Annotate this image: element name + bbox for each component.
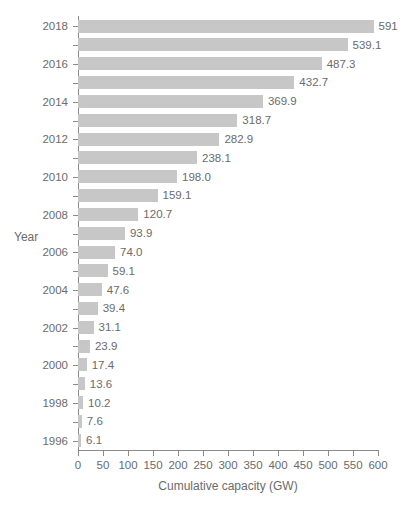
y-tick-mark bbox=[73, 309, 78, 310]
y-tick-mark bbox=[73, 64, 78, 65]
bar-row: 7.6 bbox=[78, 412, 378, 431]
bar-value-label: 369.9 bbox=[268, 93, 297, 109]
bar-row: 13.6 bbox=[78, 375, 378, 394]
bar bbox=[78, 321, 94, 334]
bar-value-label: 487.3 bbox=[327, 56, 356, 72]
bar-value-label: 59.1 bbox=[113, 263, 135, 279]
y-tick-mark bbox=[73, 83, 78, 84]
bar bbox=[78, 151, 197, 164]
bar bbox=[78, 283, 102, 296]
y-tick-label: 2000 bbox=[4, 358, 68, 372]
bar bbox=[78, 434, 81, 447]
y-tick-mark bbox=[73, 346, 78, 347]
y-tick-mark bbox=[73, 158, 78, 159]
y-tick-mark bbox=[73, 234, 78, 235]
bar-value-label: 93.9 bbox=[130, 225, 152, 241]
bar-row: 282.9 bbox=[78, 130, 378, 149]
bar-row: 17.4 bbox=[78, 356, 378, 375]
y-tick-mark bbox=[73, 422, 78, 423]
y-tick-mark bbox=[73, 45, 78, 46]
bar bbox=[78, 114, 237, 127]
bar-value-label: 159.1 bbox=[163, 187, 192, 203]
bar-row: 432.7 bbox=[78, 73, 378, 92]
y-tick-mark bbox=[73, 196, 78, 197]
x-tick-mark bbox=[378, 451, 379, 456]
bar bbox=[78, 95, 263, 108]
x-tick-mark bbox=[303, 451, 304, 456]
x-tick-mark bbox=[103, 451, 104, 456]
bar-value-label: 318.7 bbox=[242, 112, 271, 128]
y-tick-mark bbox=[73, 252, 78, 253]
y-tick-label: 2016 bbox=[4, 57, 68, 71]
bar bbox=[78, 302, 98, 315]
bar bbox=[78, 57, 322, 70]
x-tick-mark bbox=[128, 451, 129, 456]
bar-value-label: 17.4 bbox=[92, 357, 114, 373]
bar-row: 369.9 bbox=[78, 92, 378, 111]
x-tick-mark bbox=[328, 451, 329, 456]
y-tick-mark bbox=[73, 177, 78, 178]
bar bbox=[78, 133, 219, 146]
x-tick-mark bbox=[353, 451, 354, 456]
bar bbox=[78, 170, 177, 183]
x-tick-label: 600 bbox=[358, 458, 398, 472]
cumulative-capacity-bar-chart: 591539.1487.3432.7369.9318.7282.9238.119… bbox=[0, 0, 420, 509]
bar bbox=[78, 415, 82, 428]
bar-row: 238.1 bbox=[78, 149, 378, 168]
bar-value-label: 39.4 bbox=[103, 300, 125, 316]
bar-row: 47.6 bbox=[78, 281, 378, 300]
y-tick-label: 1996 bbox=[4, 434, 68, 448]
bar bbox=[78, 340, 90, 353]
y-tick-label: 2004 bbox=[4, 283, 68, 297]
bar-value-label: 23.9 bbox=[95, 338, 117, 354]
y-tick-mark bbox=[73, 384, 78, 385]
bar-row: 487.3 bbox=[78, 55, 378, 74]
y-tick-label: 2014 bbox=[4, 95, 68, 109]
bar-row: 539.1 bbox=[78, 36, 378, 55]
bar bbox=[78, 38, 348, 51]
y-tick-mark bbox=[73, 328, 78, 329]
bar-row: 120.7 bbox=[78, 205, 378, 224]
bar bbox=[78, 189, 158, 202]
y-tick-mark bbox=[73, 102, 78, 103]
x-tick-mark bbox=[278, 451, 279, 456]
bar-row: 591 bbox=[78, 17, 378, 36]
x-tick-mark bbox=[153, 451, 154, 456]
bar-value-label: 198.0 bbox=[182, 169, 211, 185]
bar-row: 93.9 bbox=[78, 224, 378, 243]
bar bbox=[78, 208, 138, 221]
y-tick-label: 2010 bbox=[4, 170, 68, 184]
bar-row: 23.9 bbox=[78, 337, 378, 356]
y-tick-mark bbox=[73, 271, 78, 272]
bar-value-label: 432.7 bbox=[299, 74, 328, 90]
plot-area: 591539.1487.3432.7369.9318.7282.9238.119… bbox=[78, 17, 378, 450]
y-tick-label: 2002 bbox=[4, 321, 68, 335]
x-tick-mark bbox=[203, 451, 204, 456]
bar bbox=[78, 358, 87, 371]
y-tick-mark bbox=[73, 365, 78, 366]
bar-value-label: 120.7 bbox=[143, 206, 172, 222]
bar bbox=[78, 396, 83, 409]
bar-value-label: 31.1 bbox=[99, 319, 121, 335]
y-tick-label: 2008 bbox=[4, 208, 68, 222]
bar-row: 198.0 bbox=[78, 168, 378, 187]
y-tick-mark bbox=[73, 215, 78, 216]
bar bbox=[78, 227, 125, 240]
bar-row: 39.4 bbox=[78, 299, 378, 318]
y-tick-mark bbox=[73, 139, 78, 140]
y-tick-mark bbox=[73, 290, 78, 291]
y-tick-mark bbox=[73, 26, 78, 27]
y-axis-title: Year bbox=[14, 230, 38, 244]
x-axis-title: Cumulative capacity (GW) bbox=[78, 479, 378, 493]
y-tick-label: 1998 bbox=[4, 396, 68, 410]
bar-row: 159.1 bbox=[78, 186, 378, 205]
x-tick-mark bbox=[253, 451, 254, 456]
bar-value-label: 10.2 bbox=[88, 395, 110, 411]
bar-row: 31.1 bbox=[78, 318, 378, 337]
bar-value-label: 282.9 bbox=[224, 131, 253, 147]
y-tick-mark bbox=[73, 121, 78, 122]
bar-value-label: 6.1 bbox=[86, 432, 102, 448]
bar-row: 10.2 bbox=[78, 394, 378, 413]
bar-value-label: 539.1 bbox=[353, 37, 382, 53]
bar bbox=[78, 76, 294, 89]
